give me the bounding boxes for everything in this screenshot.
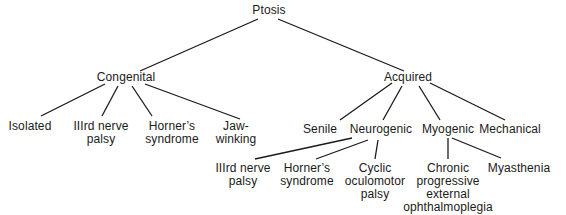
edge-acquired-senile <box>340 83 392 120</box>
edge-myo-myasthenia <box>452 138 501 158</box>
node-congenital-third-nerve-palsy: IIIrd nerve palsy <box>73 120 128 146</box>
edge-congenital-jaw <box>145 84 240 119</box>
node-chronic-progressive-external-ophthalmoplegia: Chronic progressive external ophthalmopl… <box>403 162 493 214</box>
node-congenital: Congenital <box>97 71 155 84</box>
edge-acquired-myogenic <box>419 86 440 120</box>
node-jaw-winking: Jaw- winking <box>216 120 257 146</box>
node-neurogenic: Neurogenic <box>350 123 412 136</box>
edge-congenital-horners <box>132 86 152 116</box>
edge-acquired-neurogenic <box>383 86 402 120</box>
node-congenital-horners-syndrome: Horner’s syndrome <box>145 120 199 146</box>
edge-neuro-third-nerve <box>255 138 352 159</box>
node-ptosis: Ptosis <box>252 4 285 17</box>
node-myasthenia: Myasthenia <box>488 162 550 175</box>
node-neurogenic-horners-syndrome: Horner’s syndrome <box>280 162 334 188</box>
node-neurogenic-third-nerve-palsy: IIIrd nerve palsy <box>215 162 270 188</box>
node-senile: Senile <box>303 123 337 136</box>
edge-ptosis-congenital <box>140 19 258 71</box>
node-myogenic: Myogenic <box>422 123 474 136</box>
edge-neuro-cyclic <box>375 140 378 159</box>
edge-congenital-isolated <box>41 84 105 116</box>
node-isolated: Isolated <box>9 120 52 133</box>
edge-acquired-mechanical <box>430 83 505 120</box>
node-mechanical: Mechanical <box>479 123 541 136</box>
node-cyclic-oculomotor-palsy: Cyclic oculomotor palsy <box>345 162 405 201</box>
node-acquired: Acquired <box>384 71 432 84</box>
edge-ptosis-acquired <box>278 19 404 71</box>
edge-congenital-third-nerve <box>102 86 118 116</box>
ptosis-classification-diagram: Ptosis Congenital Acquired Isolated IIIr… <box>0 0 566 215</box>
edge-neuro-horners <box>316 140 368 159</box>
